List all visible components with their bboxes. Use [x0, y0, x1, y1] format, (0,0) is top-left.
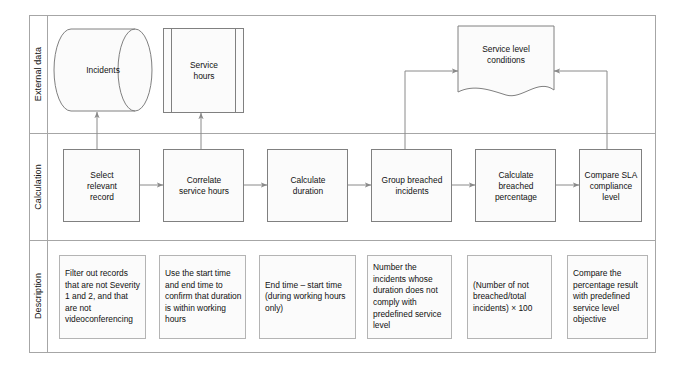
service-hours-shape[interactable]: [164, 29, 244, 113]
desc-box-3: [260, 256, 356, 339]
swimlane-diagram: [0, 0, 674, 366]
desc-box-6: [568, 256, 648, 339]
service-level-conditions-shape[interactable]: [458, 26, 554, 96]
desc-box-1: [60, 256, 146, 339]
desc-box-4: [368, 256, 452, 339]
incidents-shape[interactable]: [54, 29, 152, 111]
box-compare-sla-compliance-level: [580, 150, 642, 222]
connector-compare-to-conditions: [554, 71, 607, 149]
lane-label-description-text: Description: [33, 273, 43, 319]
description-boxes[interactable]: [60, 256, 648, 339]
box-calculate-breached-percentage: [476, 150, 556, 222]
lane-label-calculation: Calculation: [29, 133, 47, 240]
box-select-relevant-record: [64, 150, 140, 222]
box-correlate-service-hours: [164, 150, 244, 222]
diagram-canvas: External data Calculation Description In…: [0, 0, 674, 366]
lane-label-external-data-text: External data: [33, 47, 43, 101]
box-group-breached-incidents: [372, 150, 452, 222]
desc-box-2: [160, 256, 246, 339]
connector-group-to-conditions: [405, 71, 458, 149]
box-calculate-duration: [268, 150, 348, 222]
lane-label-external-data: External data: [29, 15, 47, 133]
desc-box-5: [468, 256, 552, 339]
lane-label-description: Description: [29, 240, 47, 352]
lane-label-calculation-text: Calculation: [33, 164, 43, 210]
